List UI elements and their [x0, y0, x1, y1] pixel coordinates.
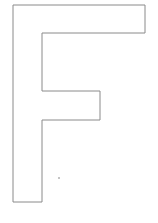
canvas: [0, 0, 158, 223]
letter-f-figure: [0, 0, 158, 223]
letter-f-outline: [13, 5, 145, 202]
speck-dot: [58, 177, 60, 179]
